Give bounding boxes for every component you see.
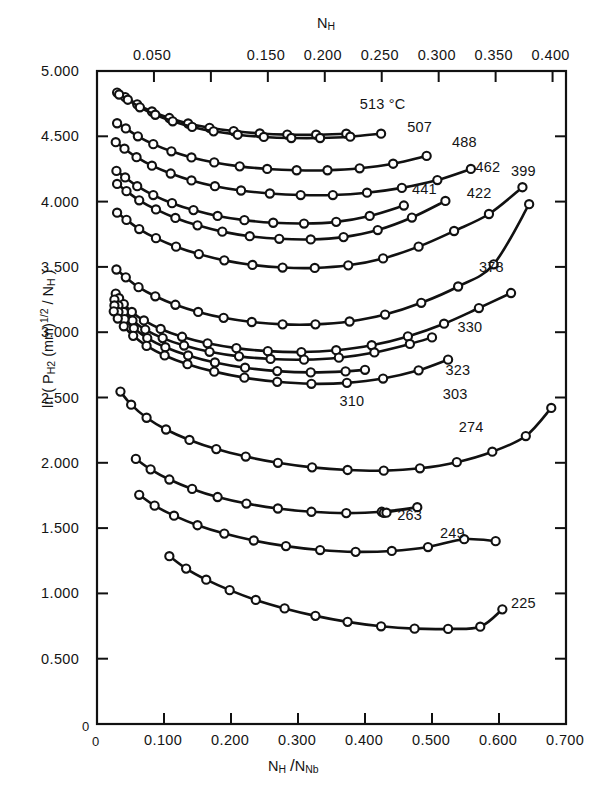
data-point: [113, 180, 121, 188]
data-point: [142, 414, 150, 422]
data-point: [263, 165, 271, 173]
data-point: [205, 348, 213, 356]
data-point: [171, 301, 179, 309]
data-point: [382, 509, 390, 517]
series-label: 323: [445, 363, 470, 378]
data-point: [356, 164, 364, 172]
data-point: [428, 333, 436, 341]
top-tick-label: 0.200: [304, 48, 342, 63]
data-point: [242, 499, 250, 507]
top-tick-label: 0.250: [361, 48, 399, 63]
data-point: [408, 213, 416, 221]
data-point: [122, 124, 130, 132]
series-label: 274: [459, 420, 484, 435]
data-point: [475, 304, 483, 312]
data-point: [151, 292, 159, 300]
data-point: [172, 243, 180, 251]
data-point: [273, 367, 281, 375]
series-line: [117, 184, 445, 240]
plot-canvas: [0, 0, 601, 792]
data-point: [210, 158, 218, 166]
series-label: 249: [440, 526, 465, 541]
x-tick-label: 0.200: [211, 733, 249, 748]
series-label: 378: [479, 260, 504, 275]
data-point: [187, 153, 195, 161]
series-line: [116, 171, 403, 224]
series-label: 422: [467, 186, 492, 201]
figure-root: NH NH /NNb ln ( PH2 (mm)1/2 / NH ) 00.10…: [0, 0, 601, 792]
data-point: [167, 169, 175, 177]
data-point: [115, 90, 123, 98]
data-point: [269, 219, 277, 227]
data-point: [114, 314, 122, 322]
data-point: [398, 184, 406, 192]
data-point: [423, 152, 431, 160]
series-249: [135, 491, 500, 556]
data-point: [140, 316, 148, 324]
y-tick-label: 3.000: [41, 325, 79, 340]
data-point: [141, 325, 149, 333]
data-point: [180, 341, 188, 349]
data-point: [211, 182, 219, 190]
top-tick-label: 0.400: [532, 48, 570, 63]
series-line: [117, 187, 522, 268]
data-point: [273, 378, 281, 386]
series-label: 507: [407, 120, 432, 135]
data-point: [266, 189, 274, 197]
data-point: [275, 235, 283, 243]
data-point: [311, 320, 319, 328]
data-point: [260, 133, 268, 141]
data-point: [282, 542, 290, 550]
y-tick-label: 1.500: [41, 521, 79, 536]
data-point: [240, 216, 248, 224]
data-point: [235, 352, 243, 360]
data-point: [300, 219, 308, 227]
data-point: [242, 452, 250, 460]
data-point: [188, 485, 196, 493]
data-point: [344, 261, 352, 269]
series-441: [112, 167, 408, 228]
data-point: [113, 209, 121, 217]
data-point: [366, 212, 374, 220]
x-tick-label: 0.500: [412, 733, 450, 748]
data-point: [240, 374, 248, 382]
data-point: [547, 404, 555, 412]
series-label: 263: [397, 508, 422, 523]
data-point: [214, 493, 222, 501]
data-point: [440, 320, 448, 328]
data-point: [168, 199, 176, 207]
series-488: [113, 119, 431, 174]
top-tick-label: 0.150: [247, 48, 285, 63]
data-point: [112, 167, 120, 175]
series-line: [120, 392, 551, 471]
y-tick-label: 2.500: [41, 391, 79, 406]
series-225: [165, 552, 506, 633]
data-point: [248, 318, 256, 326]
data-point: [274, 459, 282, 467]
data-point: [149, 191, 157, 199]
data-point: [377, 130, 385, 138]
data-point: [170, 512, 178, 520]
series-line: [139, 495, 495, 552]
data-point: [135, 491, 143, 499]
data-point: [415, 366, 423, 374]
data-point: [311, 264, 319, 272]
data-point: [252, 596, 260, 604]
data-point: [132, 153, 140, 161]
data-point: [417, 299, 425, 307]
data-point: [162, 425, 170, 433]
data-point: [311, 612, 319, 620]
data-point: [211, 358, 219, 366]
data-point: [410, 625, 418, 633]
data-point: [178, 333, 186, 341]
data-point: [346, 133, 354, 141]
data-point: [134, 283, 142, 291]
data-point: [345, 317, 353, 325]
data-point: [220, 314, 228, 322]
data-point: [332, 218, 340, 226]
data-point: [152, 234, 160, 242]
data-point: [450, 227, 458, 235]
data-point: [113, 119, 121, 127]
data-point: [210, 368, 218, 376]
series-label: 441: [412, 182, 437, 197]
